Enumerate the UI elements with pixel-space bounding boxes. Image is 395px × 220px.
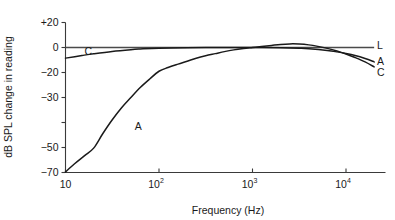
y-tick-label: 0 bbox=[53, 41, 59, 53]
x-axis-tick-labels: 10102103104 bbox=[60, 177, 351, 190]
plot-axes bbox=[62, 23, 386, 173]
x-tick-exponent: 4 bbox=[347, 177, 351, 184]
curve-label-c-right: C bbox=[377, 66, 385, 78]
y-tick-label: +20 bbox=[41, 16, 59, 28]
curve-label-a-left: A bbox=[135, 120, 142, 132]
y-axis-ticks bbox=[62, 23, 66, 173]
y-axis-tick-labels: +200−20−30−50−70 bbox=[41, 16, 59, 178]
x-axis-title: Frequency (Hz) bbox=[192, 204, 264, 216]
y-axis-title: dB SPL change in reading bbox=[2, 36, 14, 158]
y-tick-label: −20 bbox=[41, 66, 59, 78]
curve-label-l-right: L bbox=[377, 39, 383, 51]
chart-canvas: +200−20−30−50−70 10102103104 CALAC Frequ… bbox=[0, 0, 395, 220]
curve-label-a-right: A bbox=[377, 55, 384, 67]
curve-series-group bbox=[66, 44, 375, 172]
y-tick-label: −50 bbox=[41, 141, 59, 153]
x-axis-ticks bbox=[66, 169, 347, 173]
x-tick-exponent: 3 bbox=[253, 177, 257, 184]
curve-label-c-left: C bbox=[85, 45, 93, 57]
x-tick-label: 102 bbox=[148, 177, 164, 190]
x-tick-label: 103 bbox=[242, 177, 258, 190]
weighting-curves-chart: +200−20−30−50−70 10102103104 CALAC Frequ… bbox=[0, 0, 395, 220]
x-tick-label: 104 bbox=[335, 177, 351, 190]
y-tick-label: −70 bbox=[41, 166, 59, 178]
curve-annotations: CALAC bbox=[85, 39, 385, 132]
curve-c bbox=[66, 47, 375, 61]
curve-a bbox=[66, 44, 375, 172]
axis-frame bbox=[66, 23, 386, 173]
x-tick-label: 10 bbox=[60, 178, 72, 190]
y-tick-label: −30 bbox=[41, 91, 59, 103]
x-tick-exponent: 2 bbox=[160, 177, 164, 184]
